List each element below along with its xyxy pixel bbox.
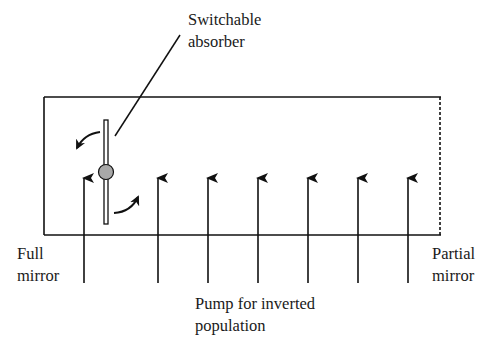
- switchable-absorber: [77, 120, 138, 224]
- pump-arrows: [84, 178, 408, 283]
- rotate-arrow-upper-icon: [77, 132, 100, 148]
- absorber-label: Switchable absorber: [188, 9, 261, 53]
- pump-label-line2: population: [195, 315, 315, 337]
- absorber-label-line2: absorber: [188, 31, 261, 53]
- absorber-leader-line: [115, 35, 180, 136]
- pump-label: Pump for inverted population: [195, 293, 315, 337]
- full-mirror-label: Full mirror: [17, 243, 59, 287]
- partial-mirror-label: Partial mirror: [432, 243, 475, 287]
- partial-mirror-label-line2: mirror: [432, 265, 475, 287]
- full-mirror-label-line1: Full: [17, 243, 59, 265]
- absorber-pivot: [99, 165, 114, 180]
- full-mirror-label-line2: mirror: [17, 265, 59, 287]
- pump-label-line1: Pump for inverted: [195, 293, 315, 315]
- partial-mirror-label-line1: Partial: [432, 243, 475, 265]
- absorber-label-line1: Switchable: [188, 9, 261, 31]
- rotate-arrow-lower-icon: [114, 197, 138, 213]
